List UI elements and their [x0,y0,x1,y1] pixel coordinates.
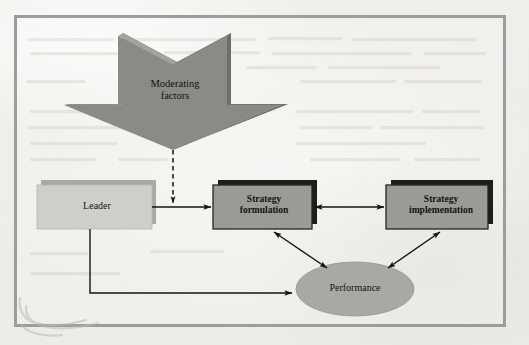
figure-border-frame [14,15,506,327]
figure-root: Moderating factors Leader Strategy formu… [0,0,529,345]
